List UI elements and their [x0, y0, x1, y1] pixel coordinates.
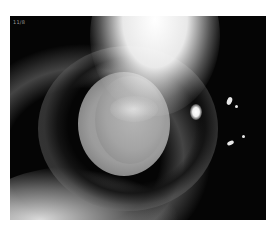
reflection-spot [235, 105, 238, 108]
photo-label: 11/8 [13, 19, 25, 25]
reflection-spot [226, 140, 234, 147]
slit-reflex [190, 104, 202, 120]
reflection-spot [226, 96, 233, 105]
eye-photograph: 11/8 [10, 16, 266, 220]
reflection-spot [242, 135, 245, 138]
